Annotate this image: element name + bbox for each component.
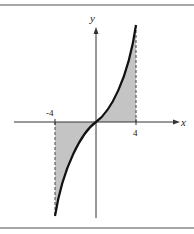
shaded-region-positive bbox=[96, 25, 136, 122]
x-axis-arrow-icon bbox=[173, 120, 180, 125]
y-axis-label: y bbox=[89, 12, 95, 24]
shaded-region-negative bbox=[55, 122, 96, 216]
y-axis-arrow-icon bbox=[94, 27, 99, 34]
x-axis-label: x bbox=[180, 116, 186, 128]
tick-label-right: 4 bbox=[133, 128, 138, 138]
integral-area-figure: y x -4 4 bbox=[0, 0, 194, 234]
tick-label-left: -4 bbox=[46, 108, 54, 118]
